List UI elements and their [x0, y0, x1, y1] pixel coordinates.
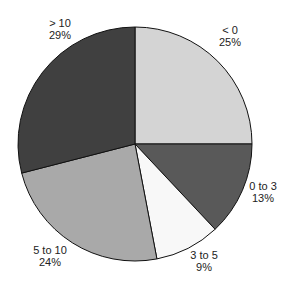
slice-label: < 025% [219, 24, 241, 48]
slice-label: 0 to 313% [249, 180, 277, 204]
slice-label-percent: 24% [39, 256, 61, 268]
slice-label-category: < 0 [222, 24, 238, 36]
slice-label-category: 0 to 3 [249, 180, 277, 192]
slice-label-category: 5 to 10 [33, 244, 67, 256]
slice-label-percent: 9% [196, 261, 212, 273]
slice-label-category: > 10 [49, 17, 71, 29]
slice-label-percent: 29% [49, 29, 71, 41]
slice-label-percent: 25% [219, 36, 241, 48]
slice-label: > 1029% [49, 17, 71, 41]
slice-label: 5 to 1024% [33, 244, 67, 268]
pie-slices [18, 27, 252, 261]
slice-label-percent: 13% [252, 192, 274, 204]
slice-label: 3 to 59% [190, 249, 218, 273]
pie-chart: < 025%0 to 313%3 to 59%5 to 1024%> 1029% [0, 0, 287, 289]
slice-label-category: 3 to 5 [190, 249, 218, 261]
